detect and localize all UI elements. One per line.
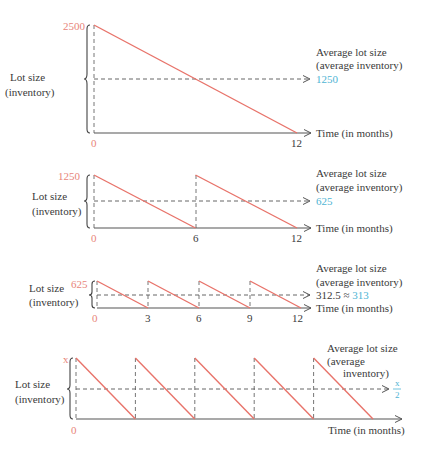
average-fraction-denominator: 2 — [395, 390, 400, 400]
x-tick-9: 9 — [247, 312, 253, 324]
inventory-depletion-segment — [76, 358, 135, 419]
y-axis-label-line1: Lot size — [10, 71, 45, 83]
inventory-depletion-segment — [148, 281, 199, 308]
y-brace — [84, 25, 90, 133]
x-tick-0: 0 — [71, 424, 77, 436]
time-axis-label: Time (in months) — [316, 222, 393, 235]
inventory-depletion-segment — [97, 281, 148, 308]
y-axis-label-line2: (inventory) — [5, 86, 55, 99]
y-axis-label-line2: (inventory) — [32, 205, 82, 218]
panel-quarterly: Lot size (inventory) 625 0 3 6 9 12 Time… — [29, 262, 403, 324]
y-axis-label-line1: Lot size — [32, 190, 67, 202]
reorder-dashed-lines — [76, 358, 314, 419]
y-brace — [89, 281, 95, 308]
x-tick-0: 0 — [91, 137, 97, 149]
inventory-depletion-segment — [94, 175, 196, 228]
average-title-line1: Average lot size — [316, 167, 387, 179]
y-axis-label-line1: Lot size — [29, 282, 64, 294]
time-axis-label: Time (in months) — [328, 424, 405, 437]
average-value: 313 — [352, 289, 369, 301]
inventory-depletion-segment — [196, 175, 298, 228]
inventory-lot-size-diagram: Lot size (inventory) 2500 0 12 Time (in … — [0, 0, 424, 457]
average-title-line1: Average lot size — [316, 46, 387, 58]
y-brace — [84, 175, 90, 228]
time-axis-label: Time (in months) — [316, 302, 393, 315]
average-title-line2: (average inventory) — [316, 59, 403, 72]
average-fraction-numerator: x — [395, 378, 400, 388]
x-tick-12: 12 — [291, 137, 302, 149]
x-tick-6: 6 — [193, 232, 199, 244]
average-value-line: 312.5 ≈ 313 — [316, 289, 369, 301]
average-title-line1: Average lot size — [316, 262, 387, 274]
average-title-line2: (average inventory) — [316, 181, 403, 194]
inventory-depletion-segment — [195, 358, 254, 419]
x-tick-3: 3 — [145, 312, 151, 324]
panel-semiannual: Lot size (inventory) 1250 0 6 12 Time (i… — [32, 167, 403, 244]
x-tick-0: 0 — [91, 232, 97, 244]
sawtooth-series — [76, 358, 373, 419]
average-title-line2: (average inventory) — [316, 276, 403, 289]
average-value: 1250 — [316, 73, 339, 85]
max-lot-size-label: 625 — [71, 278, 88, 290]
y-axis-label-line2: (inventory) — [15, 393, 65, 406]
x-tick-12: 12 — [292, 312, 303, 324]
x-tick-12: 12 — [291, 232, 302, 244]
sawtooth-series — [94, 175, 297, 228]
y-brace — [67, 358, 73, 419]
average-title-line1: Average lot size — [327, 342, 398, 354]
average-value: 625 — [316, 195, 333, 207]
max-lot-size-label: 1250 — [58, 170, 81, 182]
x-tick-0: 0 — [92, 312, 98, 324]
inventory-depletion-segment — [254, 358, 313, 419]
x-tick-6: 6 — [196, 312, 202, 324]
average-title-line3: inventory) — [343, 367, 389, 380]
y-axis-label-line2: (inventory) — [29, 296, 79, 309]
inventory-depletion-segment — [199, 281, 250, 308]
max-lot-size-label: 2500 — [63, 20, 86, 32]
inventory-depletion-segment — [135, 358, 194, 419]
panel-general: Lot size (inventory) x 0 Time (in months… — [15, 342, 405, 437]
y-axis-label-line1: Lot size — [15, 378, 50, 390]
panel-annual: Lot size (inventory) 2500 0 12 Time (in … — [5, 20, 403, 149]
inventory-depletion-segment — [250, 281, 301, 308]
max-lot-size-label: x — [63, 353, 69, 365]
average-approx-prefix: 312.5 ≈ — [316, 289, 352, 301]
time-axis-label: Time (in months) — [316, 127, 393, 140]
